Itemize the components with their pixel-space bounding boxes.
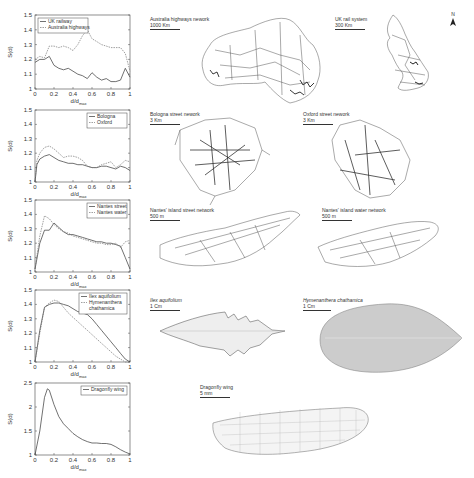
hymenanthera-leaf bbox=[320, 304, 462, 372]
y-axis-label: S(d) bbox=[7, 413, 13, 424]
x-tick-label: 0.6 bbox=[88, 457, 97, 463]
nantes-water-island bbox=[318, 221, 438, 266]
network-illustrations bbox=[140, 0, 474, 478]
y-tick-label: 2.5 bbox=[24, 380, 33, 386]
bologna-street-network bbox=[175, 118, 270, 205]
uk-rail-network bbox=[387, 15, 428, 90]
x-tick-label: 0 bbox=[33, 457, 37, 463]
oxford-street-network bbox=[332, 120, 410, 198]
series-line bbox=[35, 389, 130, 455]
y-tick-label: 2 bbox=[29, 404, 33, 410]
x-axis-label: d/dmax bbox=[71, 464, 87, 472]
y-tick-label: 1 bbox=[29, 452, 33, 458]
nantes-street-island bbox=[160, 211, 300, 266]
dragonfly-wing bbox=[213, 408, 368, 455]
legend-entry: Dragonfly wing bbox=[91, 386, 124, 392]
x-tick-label: 1 bbox=[128, 457, 132, 463]
x-tick-label: 0.2 bbox=[50, 457, 59, 463]
x-tick-label: 0.8 bbox=[107, 457, 116, 463]
ilex-leaf bbox=[160, 312, 285, 356]
australia-highway-network bbox=[202, 18, 320, 103]
x-tick-label: 0.4 bbox=[69, 457, 78, 463]
y-tick-label: 1.5 bbox=[24, 428, 33, 434]
